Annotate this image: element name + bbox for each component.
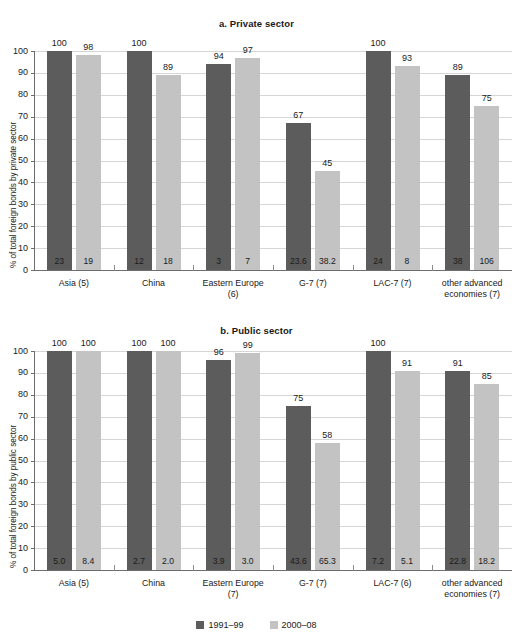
figure: a. Private sector % of total foreign bon… xyxy=(0,0,513,641)
group-separator-tick xyxy=(193,565,194,571)
y-tick-label: 50 xyxy=(2,156,28,165)
group-separator-tick xyxy=(193,265,194,271)
y-axis-line xyxy=(34,351,35,571)
bar xyxy=(366,351,391,570)
bar xyxy=(474,384,499,570)
bar-inner-label: 8.4 xyxy=(71,557,106,566)
gridline xyxy=(34,395,512,396)
chart-panel-private-sector: a. Private sector % of total foreign bon… xyxy=(0,0,513,310)
bar-inner-label: 5.1 xyxy=(390,557,425,566)
group-separator-tick xyxy=(114,265,115,271)
bar xyxy=(127,351,152,570)
group-separator-tick xyxy=(353,565,354,571)
gridline xyxy=(34,204,512,205)
bar xyxy=(76,55,101,270)
y-tick-label: 40 xyxy=(2,178,28,187)
bar-inner-label: 3.0 xyxy=(230,557,265,566)
bar-value-label: 75 xyxy=(279,394,318,403)
gridline xyxy=(34,139,512,140)
gridline xyxy=(34,351,512,352)
bar-value-label: 100 xyxy=(120,39,159,48)
bar-inner-label: 2.0 xyxy=(151,557,186,566)
bar-value-label: 91 xyxy=(438,359,477,368)
bar-value-label: 89 xyxy=(438,63,477,72)
y-tick-label: 80 xyxy=(2,90,28,99)
bar-inner-label: 19 xyxy=(71,257,106,266)
x-axis-category-line: economies (7) xyxy=(420,289,513,300)
bar xyxy=(206,360,231,570)
gridline xyxy=(34,526,512,527)
gridline xyxy=(34,548,512,549)
gridline xyxy=(34,73,512,74)
x-axis-category-line: economies (7) xyxy=(420,589,513,600)
bar-value-label: 100 xyxy=(149,339,188,348)
panel-title-a: a. Private sector xyxy=(0,18,513,29)
y-tick-label: 100 xyxy=(2,47,28,56)
panel-title-b: b. Public sector xyxy=(0,325,513,336)
bar xyxy=(235,353,260,570)
bar xyxy=(445,75,470,270)
bar xyxy=(206,64,231,270)
gridline xyxy=(34,417,512,418)
bar-value-label: 100 xyxy=(69,339,108,348)
gridline xyxy=(34,482,512,483)
legend-swatch-icon xyxy=(270,621,278,629)
bar-value-label: 89 xyxy=(149,63,188,72)
bar-value-label: 45 xyxy=(308,159,347,168)
y-tick-label: 30 xyxy=(2,500,28,509)
bar xyxy=(445,371,470,570)
bar xyxy=(156,75,181,270)
y-tick-label: 70 xyxy=(2,412,28,421)
bar xyxy=(395,66,420,270)
group-separator-tick xyxy=(432,265,433,271)
bar-value-label: 91 xyxy=(388,359,427,368)
bar-value-label: 75 xyxy=(467,94,506,103)
y-tick-label: 10 xyxy=(2,544,28,553)
gridline xyxy=(34,95,512,96)
plot-area-b: 01020304050607080901001005.01008.41002.7… xyxy=(34,351,512,570)
y-tick-label: 0 xyxy=(2,566,28,575)
bar xyxy=(156,351,181,570)
gridline xyxy=(34,161,512,162)
bar xyxy=(47,51,72,270)
bar-inner-label: 65.3 xyxy=(310,557,345,566)
y-axis-line xyxy=(34,51,35,271)
bar-value-label: 97 xyxy=(228,46,267,55)
group-separator-tick xyxy=(114,565,115,571)
bar-inner-label: 38.2 xyxy=(310,257,345,266)
gridline xyxy=(34,117,512,118)
y-tick-label: 90 xyxy=(2,368,28,377)
plot-area-a: 0102030405060708090100100239819100128918… xyxy=(34,51,512,270)
bar-value-label: 99 xyxy=(228,341,267,350)
x-axis-category-line: (7) xyxy=(181,589,285,600)
y-tick-label: 100 xyxy=(2,347,28,356)
y-tick-label: 10 xyxy=(2,244,28,253)
legend-label: 2000–08 xyxy=(282,620,317,630)
bar-inner-label: 106 xyxy=(469,257,504,266)
gridline xyxy=(34,439,512,440)
bar xyxy=(366,51,391,270)
gridline xyxy=(34,461,512,462)
y-tick-label: 70 xyxy=(2,112,28,121)
gridline xyxy=(34,226,512,227)
x-axis-category-line: other advanced xyxy=(420,278,513,289)
group-separator-tick xyxy=(273,265,274,271)
bar-inner-label: 18.2 xyxy=(469,557,504,566)
bar-value-label: 98 xyxy=(69,43,108,52)
chart-legend: 1991–992000–08 xyxy=(0,616,513,634)
gridline xyxy=(34,504,512,505)
y-tick-label: 50 xyxy=(2,456,28,465)
bar xyxy=(76,351,101,570)
bar-inner-label: 8 xyxy=(390,257,425,266)
x-axis-category-label: other advancedeconomies (7) xyxy=(420,278,513,299)
group-separator-tick xyxy=(353,265,354,271)
gridline xyxy=(34,182,512,183)
bar xyxy=(127,51,152,270)
bar-value-label: 93 xyxy=(388,54,427,63)
bar-value-label: 100 xyxy=(359,39,398,48)
bar-inner-label: 7 xyxy=(230,257,265,266)
y-tick-label: 40 xyxy=(2,478,28,487)
legend-swatch-icon xyxy=(196,621,204,629)
bar xyxy=(474,106,499,270)
x-axis-category-label: other advancedeconomies (7) xyxy=(420,578,513,599)
